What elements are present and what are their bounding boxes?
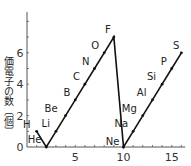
element-label: H [23,119,31,130]
data-point [55,130,58,133]
element-label: N [82,56,89,67]
y-tick-label: 4 [17,78,24,91]
valence-electron-chart: 024651015HHeLiBeBCNOFNeNaMgAlSiPS [0,0,191,166]
element-label: O [91,40,99,51]
x-tick-label: 5 [72,151,79,164]
element-label: Li [42,118,50,129]
element-label: Na [115,118,129,129]
element-label: B [63,87,70,98]
data-point [132,130,135,133]
data-point [112,36,115,39]
element-label: Be [45,103,58,114]
x-tick-label: 10 [117,151,131,164]
data-point [122,146,125,149]
x-tick-label: 15 [165,151,179,164]
data-point [64,114,67,117]
element-label: Al [137,87,147,98]
element-label: P [161,56,167,67]
y-axis-label: 価電子の数〔個〕 [1,56,13,136]
data-point [141,114,144,117]
data-point [45,146,48,149]
element-label: F [105,24,111,35]
data-point [84,83,87,86]
element-label: Ne [106,136,120,147]
y-tick-label: 0 [17,141,24,154]
data-line [37,37,182,147]
element-label: Mg [122,103,137,114]
data-point [161,83,164,86]
element-label: Si [147,71,156,82]
data-point [74,99,77,102]
element-label: C [73,71,80,82]
element-label: S [173,40,179,51]
y-tick-label: 6 [17,47,24,60]
data-point [151,99,154,102]
data-point [35,130,38,133]
element-label: He [28,134,42,145]
data-point [170,67,173,70]
data-point [93,67,96,70]
data-point [103,51,106,54]
data-point [180,51,183,54]
